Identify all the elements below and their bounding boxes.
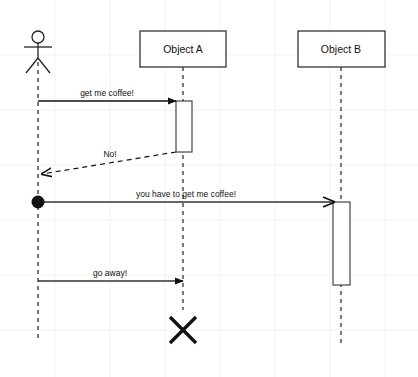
- actor-figure[interactable]: [24, 31, 52, 73]
- sequence-diagram-canvas: Object A Object B get me coffee! No! you…: [0, 0, 418, 377]
- actor-head-icon: [32, 31, 44, 43]
- object-b-label: Object B: [321, 43, 361, 55]
- actor-leg-left: [26, 58, 38, 73]
- activation-bar-object-b[interactable]: [333, 202, 350, 285]
- message-get-me-coffee[interactable]: get me coffee!: [38, 88, 176, 101]
- message-label: go away!: [93, 268, 127, 278]
- activation-bar-object-a[interactable]: [176, 101, 192, 152]
- object-a-label: Object A: [163, 43, 203, 55]
- message-label: No!: [103, 149, 116, 159]
- found-message-ball-icon: [32, 196, 45, 209]
- diagram-svg: Object A Object B get me coffee! No! you…: [0, 0, 418, 377]
- message-go-away[interactable]: go away!: [38, 268, 183, 281]
- participant-object-a[interactable]: Object A: [140, 31, 226, 67]
- participant-object-b[interactable]: Object B: [298, 31, 385, 67]
- actor-leg-right: [38, 58, 50, 73]
- message-label: get me coffee!: [80, 88, 134, 98]
- message-no[interactable]: No!: [42, 149, 176, 174]
- message-label: you have to get me coffee!: [136, 189, 236, 199]
- destruction-marker-object-a[interactable]: [170, 317, 196, 343]
